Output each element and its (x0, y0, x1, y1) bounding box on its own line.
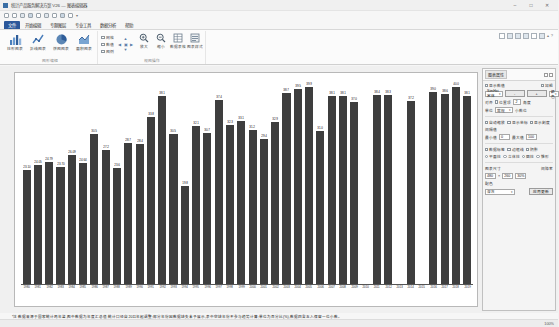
help-icon[interactable]: ? (551, 33, 553, 38)
chart-bar-rect[interactable] (181, 186, 189, 284)
chart-bar-2006[interactable]: 31.0 (315, 77, 326, 284)
chart-bar-1998[interactable]: 32.3 (224, 77, 235, 284)
chart-icon[interactable] (60, 13, 65, 18)
chart-bar-rect[interactable] (328, 96, 336, 284)
chart-bar-2018[interactable]: 40.0 (450, 77, 461, 284)
axis-max-input[interactable]: 100 (526, 134, 537, 140)
pan-right-icon[interactable]: ▶ (129, 42, 134, 47)
chart-bar-1981[interactable]: 24.05 (32, 77, 43, 284)
chart-bar-1983[interactable]: 23.70 (55, 77, 66, 284)
pan-down-icon[interactable]: ▼ (123, 47, 128, 52)
chart-bar-rect[interactable] (305, 87, 313, 284)
area-chart-button[interactable]: 面积图表 (74, 33, 94, 51)
panel-close-icon[interactable] (549, 73, 553, 77)
chart-bar-2011[interactable]: 38.4 (371, 77, 382, 284)
number-format-select[interactable]: 常规 ▾ (495, 107, 513, 113)
ribbon-collapse-icon[interactable]: ▴ (547, 33, 549, 38)
chart-bar-2001[interactable]: 29.4 (258, 77, 269, 284)
chart-bar-1996[interactable]: 30.7 (202, 77, 213, 284)
chart-bar-2015[interactable] (416, 77, 427, 284)
copy-icon[interactable] (52, 13, 57, 18)
chart-bar-rect[interactable] (68, 155, 76, 284)
axis-min-input[interactable]: 0 (499, 134, 510, 140)
align-center-icon[interactable] (515, 33, 521, 39)
line-chart-button[interactable]: 折线图表 (28, 33, 48, 51)
chart-bar-rect[interactable] (271, 122, 279, 284)
chart-bar-1994[interactable]: 19.8 (179, 77, 190, 284)
tab-pro-tools[interactable]: 专业工具 (71, 21, 95, 29)
chart-style-button[interactable]: 图表样式 (188, 33, 202, 49)
export-icon[interactable] (68, 13, 73, 18)
chart-bar-rect[interactable] (407, 101, 415, 284)
chart-bar-2003[interactable]: 38.7 (281, 77, 292, 284)
chart-bar-rect[interactable] (90, 134, 98, 284)
chart-bar-1982[interactable]: 24.79 (44, 77, 55, 284)
chart-bar-1985[interactable]: 24.64 (77, 77, 88, 284)
chart-bar-rect[interactable] (373, 95, 381, 284)
chart-bar-2014[interactable]: 37.2 (405, 77, 416, 284)
chart-bar-1993[interactable]: 30.5 (168, 77, 179, 284)
tab-thematic-layer[interactable]: 专题图层 (46, 21, 70, 29)
tab-file[interactable]: 文件 (4, 21, 20, 29)
font-size-decrease-button[interactable]: - (505, 90, 525, 97)
chart-bar-2009[interactable]: 37.0 (349, 77, 360, 284)
distribute-icon[interactable] (531, 33, 537, 39)
chart-bar-rect[interactable] (203, 133, 211, 284)
chart-bar-rect[interactable] (237, 121, 245, 284)
theme-select[interactable]: 深灰 ▾ (485, 189, 515, 195)
chart-bar-rect[interactable] (113, 168, 121, 284)
style-radio-cylinder[interactable]: 圆柱 (522, 154, 534, 159)
redo-icon[interactable] (44, 13, 49, 18)
chart-bar-1989[interactable]: 28.7 (123, 77, 134, 284)
chart-bar-2017[interactable]: 38.6 (439, 77, 450, 284)
tab-start-edit[interactable]: 开始编辑 (21, 21, 45, 29)
chart-bar-2010[interactable] (360, 77, 371, 284)
chart-bar-rect[interactable] (260, 139, 268, 284)
chart-bar-rect[interactable] (316, 131, 324, 284)
show-tick-checkbox[interactable]: 显示刻度 (530, 120, 550, 125)
undo-icon[interactable] (36, 13, 41, 18)
chart-bar-rect[interactable] (452, 87, 460, 284)
chart-bar-1988[interactable]: 23.6 (111, 77, 122, 284)
pie-chart-button[interactable]: 饼图图表 (51, 33, 71, 51)
pan-left-icon[interactable]: ◀ (117, 42, 122, 47)
chart-bar-rect[interactable] (102, 150, 110, 284)
zoom-out-button[interactable]: 缩小 (154, 33, 168, 49)
tab-help[interactable]: 帮助 (121, 21, 137, 29)
show-value-checkbox[interactable]: 显示数值 (485, 83, 505, 88)
bold-checkbox[interactable]: 加粗 (541, 83, 553, 88)
chart-bar-rect[interactable] (441, 94, 449, 284)
font-size-increase-button[interactable]: + (527, 90, 547, 97)
font-color-select[interactable]: 颜色 ▾ (549, 91, 559, 97)
style-radio-cone[interactable]: 锥形 (536, 154, 548, 159)
chart-bar-rect[interactable] (384, 95, 392, 284)
chart-bar-rect[interactable] (23, 170, 31, 284)
data-label-checkbox[interactable]: 数据标签 (485, 147, 505, 152)
open-icon[interactable] (12, 13, 17, 18)
chart-bar-1992[interactable]: 38.1 (157, 77, 168, 284)
chart-bar-1990[interactable]: 28.4 (134, 77, 145, 284)
chart-bar-rect[interactable] (45, 162, 53, 284)
chart-bar-rect[interactable] (147, 117, 155, 284)
chart-height-input[interactable]: 260 (502, 173, 513, 179)
style-radio-solid[interactable]: 立体柱 (503, 154, 519, 159)
show-labels-checkbox[interactable]: 数值 (101, 42, 114, 47)
style-radio-flat[interactable]: 平面柱 (485, 154, 501, 159)
bar-chart-button[interactable]: 柱形图表 (5, 33, 25, 51)
show-grid-checkbox[interactable]: 网格 (101, 35, 114, 40)
chart-bar-rect[interactable] (350, 102, 358, 284)
chart-width-input[interactable]: 480 (485, 173, 496, 179)
chart-bar-1999[interactable]: 33.1 (236, 77, 247, 284)
chart-bar-rect[interactable] (136, 144, 144, 284)
frame-icon[interactable] (499, 33, 505, 39)
chart-bar-1995[interactable]: 32.1 (190, 77, 201, 284)
chart-bar-1991[interactable]: 33.8 (145, 77, 156, 284)
gap-ratio-input[interactable]: 30% (515, 173, 526, 179)
chart-bar-2000[interactable]: 31.2 (247, 77, 258, 284)
chart-bar-rect[interactable] (429, 92, 437, 284)
maximize-button[interactable]: □ (523, 0, 539, 11)
font-family-select[interactable]: SimHei 宋体 ▾ (485, 91, 503, 97)
border-checkbox[interactable]: 边框线 (507, 147, 523, 152)
show-legend-checkbox[interactable]: 图例 (101, 49, 114, 54)
chart-bar-rect[interactable] (339, 96, 347, 284)
